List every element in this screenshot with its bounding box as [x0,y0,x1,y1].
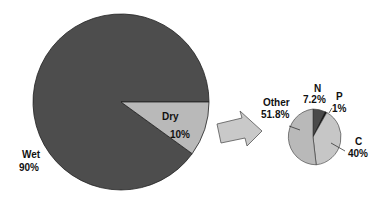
p-pct: 1% [332,103,347,114]
small-pie [288,109,341,165]
n-label: N [314,83,321,94]
wet-label: Wet [22,149,41,160]
c-pct: 40% [348,148,368,159]
other-slice [288,109,316,165]
other-pct: 51.8% [261,109,289,120]
wet-pct: 90% [19,162,39,173]
other-label: Other [263,97,290,108]
arrow-icon [217,111,262,146]
chart-canvas: Dry 10% Wet 90% N 7.2% P 1% Other 51.8% … [0,0,384,202]
big-pie [33,14,209,190]
p-label: P [336,91,343,102]
n-pct: 7.2% [303,94,326,105]
c-label: C [355,136,362,147]
dry-pct: 10% [170,129,190,140]
dry-label: Dry [162,111,179,122]
